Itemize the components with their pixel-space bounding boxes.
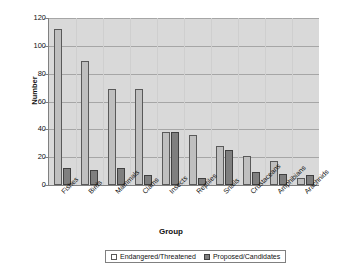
legend-item-proposed-candidates: Proposed/Candidates <box>204 253 280 260</box>
bar <box>297 178 305 185</box>
chart-figure: Number 020406080100120 FishesBirdsMammal… <box>0 0 342 276</box>
y-axis-tick <box>44 157 48 158</box>
legend-swatch-icon <box>204 254 210 260</box>
y-axis-tick-labels: 020406080100120 <box>20 0 46 210</box>
y-axis-tick <box>44 18 48 19</box>
chart-legend: Endangered/Threatened Proposed/Candidate… <box>105 250 286 263</box>
x-axis-title: Group <box>0 227 342 236</box>
category-gridline <box>292 18 293 185</box>
plot-area <box>48 18 319 186</box>
bar <box>162 132 170 185</box>
bar <box>216 146 224 185</box>
bar-group <box>76 61 103 185</box>
bar <box>171 132 179 185</box>
y-axis-tick <box>44 46 48 47</box>
bar <box>81 61 89 185</box>
bar <box>108 89 116 185</box>
bar <box>189 135 197 185</box>
y-axis-tick <box>44 74 48 75</box>
category-gridline <box>265 18 266 185</box>
y-axis-tick <box>44 185 48 186</box>
bar-group <box>49 29 76 185</box>
y-axis-tick <box>44 102 48 103</box>
bar <box>54 29 62 185</box>
bar <box>243 156 251 185</box>
legend-swatch-icon <box>111 254 117 260</box>
y-axis-tick <box>44 129 48 130</box>
legend-item-endangered-threatened: Endangered/Threatened <box>111 253 196 260</box>
bar-group <box>103 89 130 185</box>
legend-label: Proposed/Candidates <box>213 253 280 260</box>
legend-label: Endangered/Threatened <box>120 253 196 260</box>
